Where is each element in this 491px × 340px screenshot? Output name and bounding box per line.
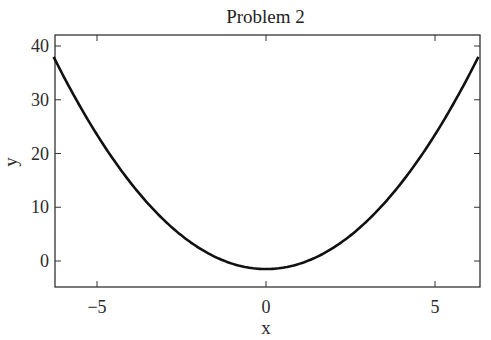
y-axis-label: y <box>0 157 21 167</box>
x-tick-label: 0 <box>262 297 271 317</box>
y-tick-label: 40 <box>31 36 49 56</box>
y-tick-label: 20 <box>31 144 49 164</box>
x-tick-label: 5 <box>431 297 440 317</box>
x-tick-label: −5 <box>87 297 106 317</box>
y-tick-label: 10 <box>31 197 49 217</box>
data-line <box>54 57 479 269</box>
y-tick-label: 30 <box>31 90 49 110</box>
plot-area: −505010203040 x y <box>0 0 491 340</box>
tick-labels: −505010203040 <box>31 36 440 317</box>
x-axis-label: x <box>261 317 271 338</box>
y-tick-label: 0 <box>40 251 49 271</box>
